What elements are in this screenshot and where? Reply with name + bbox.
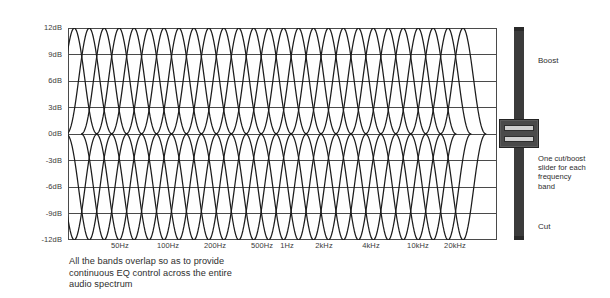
caption-line-1: All the bands overlap so as to provide [69,256,319,268]
x-tick-label: 500Hz [251,241,273,250]
y-tick-label: -3dB [2,157,62,165]
y-tick-label: -6dB [2,183,62,191]
fader-note-line-1: One cut/boost [538,154,608,163]
fader-knob-slot-upper [504,125,534,131]
fader-knob-slot-lower [504,136,534,142]
fader-annotation: One cut/boost slider for each frequency … [538,154,608,191]
fader-note-line-2: slider for each [538,163,608,172]
y-axis-labels: 12dB 9dB 6dB 3dB 0dB -3dB -6dB -9dB -12d… [0,0,62,298]
fader-track-top-cap [514,27,524,31]
fader-cut-label: Cut [538,222,550,232]
fader-note-line-3: frequency [538,172,608,181]
caption-line-3: audio spectrum [69,279,319,291]
eq-diagram: 12dB 9dB 6dB 3dB 0dB -3dB -6dB -9dB -12d… [0,0,610,298]
eq-curves-svg [68,28,497,240]
y-tick-label: 9dB [2,51,62,59]
x-tick-label: 10kHz [407,241,429,250]
x-tick-label: 20kHz [444,241,466,250]
gridlines [68,28,497,240]
x-tick-label: 2kHz [315,241,333,250]
fader-knob-handle[interactable] [499,119,539,148]
fader-note-line-4: band [538,182,608,191]
y-tick-label: 6dB [2,77,62,85]
y-tick-label: 3dB [2,104,62,112]
cut-boost-fader[interactable] [514,27,524,240]
caption-line-2: continuous EQ control across the entire [69,268,319,280]
x-tick-label: 1Hz [280,241,294,250]
fader-track-bottom-cap [514,236,524,240]
eq-response-plot [68,28,497,240]
x-axis-labels: 50Hz 100Hz 200Hz 500Hz 1Hz 2kHz 4kHz 10k… [0,241,610,253]
x-tick-label: 50Hz [111,241,129,250]
diagram-caption: All the bands overlap so as to provide c… [69,256,319,291]
x-tick-label: 200Hz [204,241,226,250]
y-tick-label: 0dB [2,130,62,138]
x-tick-label: 4kHz [362,241,380,250]
fader-boost-label: Boost [538,56,558,66]
y-tick-label: -9dB [2,210,62,218]
y-tick-label: 12dB [2,24,62,32]
x-tick-label: 100Hz [157,241,179,250]
